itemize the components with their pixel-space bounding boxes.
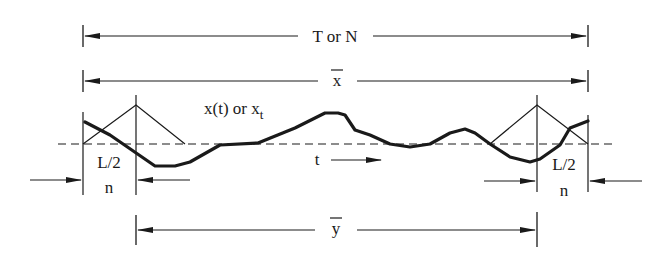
left-half-window-label: L/2 (97, 153, 121, 172)
right-half-window-label: L/2 (552, 155, 576, 174)
left-n-label: n (105, 178, 114, 197)
total-span-dimension: T or N (83, 25, 588, 47)
left-triangle-kernel (83, 105, 185, 144)
y-bar-label: y (332, 219, 341, 238)
x-bar-label: x (333, 71, 342, 90)
x-bar-dimension: x (83, 70, 588, 92)
diagram-svg: T or N x L/2 n L/2 n (0, 0, 661, 259)
series-label: x(t) or xt (204, 99, 264, 122)
series-label-subscript: t (260, 107, 264, 122)
right-n-label: n (560, 181, 569, 200)
series-label-main: x(t) or x (204, 99, 260, 118)
total-span-label: T or N (312, 27, 357, 46)
right-triangle-kernel (490, 105, 588, 144)
diagram-canvas: T or N x L/2 n L/2 n (0, 0, 661, 259)
left-window: L/2 n (30, 95, 190, 197)
right-window: L/2 n (484, 95, 642, 200)
y-bar-dimension: y (136, 212, 537, 247)
time-label: t (315, 150, 320, 169)
series-curve (85, 113, 588, 166)
